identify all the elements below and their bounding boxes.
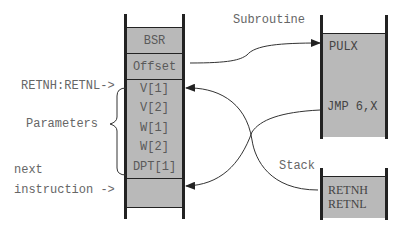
arrow-offset-to-pulx [190,43,320,63]
arrow-stack-to-v1 [186,88,318,190]
parameters-brace [110,88,126,175]
arrow-jmp-to-next-instruction [186,110,320,186]
diagram-arrows [0,0,405,234]
